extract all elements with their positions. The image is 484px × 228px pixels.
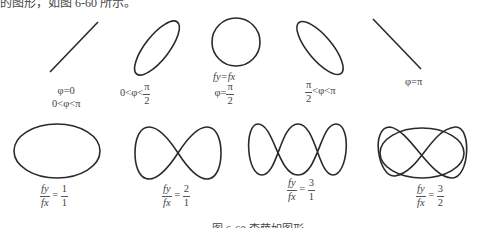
ellipse bbox=[14, 124, 100, 178]
frac-den: fx bbox=[41, 197, 49, 209]
label-text: <φ<π bbox=[312, 85, 335, 96]
ratio-2-1: fyfx = 21 bbox=[162, 184, 190, 208]
label-phase-0: φ=0 0<φ<π bbox=[52, 84, 80, 110]
frac-num: 1 bbox=[61, 184, 68, 197]
line-negative-slope bbox=[373, 19, 421, 69]
label-text: 0<φ< bbox=[120, 87, 143, 98]
frac-num: fy bbox=[287, 178, 297, 191]
label-phase-pi2-to-pi: π2<φ<π bbox=[305, 80, 336, 104]
ratio-1-1: fyfx = 11 bbox=[40, 184, 68, 208]
lissajous-3-2 bbox=[378, 127, 466, 178]
three-lobe bbox=[249, 124, 347, 175]
label-equal-freq-pi2: fy=fx φ=π2 bbox=[213, 71, 235, 106]
label-line: φ=0 bbox=[52, 84, 80, 97]
label-line: 0<φ<π bbox=[52, 97, 80, 110]
frac-den: 1 bbox=[62, 197, 67, 209]
frac-num: fy bbox=[416, 184, 426, 197]
ratio-3-1: fyfx = 31 bbox=[287, 178, 315, 202]
label-phase-pi: φ=π bbox=[405, 76, 422, 87]
frac-den: 2 bbox=[144, 95, 149, 107]
figure-eight bbox=[135, 127, 221, 179]
frac-num: 3 bbox=[308, 178, 315, 191]
frac-den: fx bbox=[417, 197, 425, 209]
lissajous-figures bbox=[0, 0, 484, 228]
frac-den: fx bbox=[288, 191, 296, 203]
circle bbox=[212, 18, 260, 66]
frac-den: 2 bbox=[438, 197, 443, 209]
line-positive-slope bbox=[50, 22, 98, 72]
frac-num: fy bbox=[40, 184, 50, 197]
label-text: φ= bbox=[214, 87, 226, 98]
frac-den: 2 bbox=[306, 93, 311, 105]
frac-den: 1 bbox=[184, 197, 189, 209]
frac-num: π bbox=[143, 82, 150, 95]
frac-den: fx bbox=[163, 197, 171, 209]
frac-num: 3 bbox=[437, 184, 444, 197]
ellipse-tilted-left bbox=[290, 15, 351, 81]
ratio-3-2: fyfx = 32 bbox=[416, 184, 444, 208]
frac-num: π bbox=[226, 82, 233, 95]
ellipse-tilted-right bbox=[127, 15, 187, 82]
frac-den: 2 bbox=[227, 95, 232, 107]
frac-den: 1 bbox=[309, 191, 314, 203]
frac-num: 2 bbox=[183, 184, 190, 197]
frac-num: fy bbox=[162, 184, 172, 197]
label-phase-0-to-pi2: 0<φ<π2 bbox=[120, 82, 150, 106]
figure-caption: 图 6-60 李萨如图形 bbox=[212, 220, 304, 228]
